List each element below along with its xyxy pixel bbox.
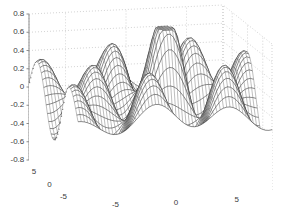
y-tick-label-2: -5 bbox=[55, 193, 67, 201]
x-tick-label-1: 0 bbox=[169, 199, 183, 207]
x-tick-label-2: 5 bbox=[230, 196, 244, 204]
z-tick-label-6: -0.4 bbox=[2, 120, 24, 128]
z-tick-label-1: 0.6 bbox=[2, 28, 24, 36]
z-tick-label-8: -0.8 bbox=[2, 156, 24, 164]
z-tick-label-7: -0.6 bbox=[2, 138, 24, 146]
z-tick-label-5: -0.2 bbox=[2, 101, 24, 109]
z-tick-label-2: 0.4 bbox=[2, 47, 24, 55]
z-tick-label-0: 0.8 bbox=[2, 10, 24, 18]
x-tick-label-0: -5 bbox=[108, 201, 122, 209]
z-tick-label-3: 0.2 bbox=[2, 65, 24, 73]
figure-canvas: 0.80.60.40.20-0.2-0.4-0.6-0.850-5-505 bbox=[0, 0, 287, 221]
z-tick-label-4: 0 bbox=[2, 83, 24, 91]
y-tick-label-1: 0 bbox=[40, 181, 52, 189]
y-tick-label-0: 5 bbox=[24, 168, 36, 176]
